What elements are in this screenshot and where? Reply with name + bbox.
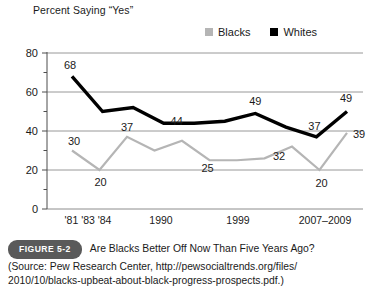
figure-title-text: Are Blacks Better Off Now Than Five Year… [90,242,315,256]
data-label-whites-9: 49 [340,92,352,104]
figure-number-badge: FIGURE 5-2 [8,240,82,259]
x-axis-label-2: 1999 [226,214,250,226]
x-axis-label-0: '81 '83 '84 [65,214,112,226]
figure-container: Percent Saying “Yes” Blacks Whites 02040… [0,0,378,289]
data-label-whites-6: 49 [249,95,261,107]
y-tick-label-40: 40 [26,125,38,137]
data-label-whites-3: 44 [171,115,183,127]
y-tick-label-80: 80 [26,47,38,59]
data-label-whites-8: 37 [308,120,320,132]
series-line-whites [72,76,347,136]
data-label-blacks-10: 39 [353,128,365,140]
data-label-blacks-2: 37 [121,121,133,133]
caption-heading-row: FIGURE 5-2 Are Blacks Better Off Now Tha… [8,240,376,259]
data-label-blacks-0: 30 [68,135,80,147]
x-axis-label-3: 2007–2009 [299,214,352,226]
figure-caption: FIGURE 5-2 Are Blacks Better Off Now Tha… [8,240,376,288]
data-label-blacks-1: 20 [94,176,106,188]
data-label-blacks-8: 32 [273,150,285,162]
y-tick-label-20: 20 [26,164,38,176]
data-label-whites-0: 68 [64,59,76,71]
data-label-blacks-9: 20 [315,177,327,189]
y-tick-label-0: 0 [32,203,38,215]
data-label-blacks-5: 25 [201,162,213,174]
figure-source-text: (Source: Pew Research Center, http://pew… [8,260,376,288]
y-tick-label-60: 60 [26,86,38,98]
x-axis-label-1: 1990 [149,214,173,226]
